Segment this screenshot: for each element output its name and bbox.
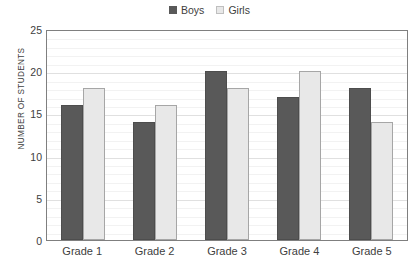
x-axis-tick-2: Grade 2: [118, 246, 190, 257]
bars-layer: [47, 31, 407, 240]
legend-label-boys: Boys: [181, 5, 204, 16]
bar-group-5: [335, 31, 407, 240]
bar-group-4: [263, 31, 335, 240]
legend-label-girls: Girls: [228, 5, 250, 16]
bar-boys-grade-3[interactable]: [205, 71, 227, 240]
legend-entry-girls[interactable]: Girls: [216, 5, 250, 16]
bar-group-3: [191, 31, 263, 240]
legend-swatch-icon-boys: [169, 6, 177, 14]
x-axis-tick-3: Grade 3: [191, 246, 263, 257]
x-axis-tick-4: Grade 4: [263, 246, 335, 257]
bar-group-2: [119, 31, 191, 240]
plot-area: [46, 30, 408, 241]
y-axis-tick-20: 20: [30, 67, 42, 78]
y-axis-tick-0: 0: [36, 236, 42, 247]
bar-boys-grade-2[interactable]: [133, 122, 155, 240]
bar-boys-grade-1[interactable]: [61, 105, 83, 240]
bar-group-1: [47, 31, 119, 240]
bar-girls-grade-5[interactable]: [371, 122, 393, 240]
x-axis-tick-labels: Grade 1Grade 2Grade 3Grade 4Grade 5: [46, 246, 408, 257]
x-axis-tick-5: Grade 5: [336, 246, 408, 257]
bar-boys-grade-4[interactable]: [277, 97, 299, 240]
chart-legend: Boys Girls: [0, 1, 419, 19]
y-axis-tick-15: 15: [30, 109, 42, 120]
y-axis-tick-25: 25: [30, 25, 42, 36]
bar-girls-grade-1[interactable]: [83, 88, 105, 240]
bar-girls-grade-2[interactable]: [155, 105, 177, 240]
x-axis-tick-1: Grade 1: [46, 246, 118, 257]
bar-boys-grade-5[interactable]: [349, 88, 371, 240]
legend-swatch-icon-girls: [216, 6, 224, 14]
bar-girls-grade-3[interactable]: [227, 88, 249, 240]
y-axis-tick-5: 5: [36, 194, 42, 205]
legend-entry-boys[interactable]: Boys: [169, 5, 204, 16]
y-axis-tick-10: 10: [30, 151, 42, 162]
bar-chart: Boys Girls NUMBER OF STUDENTS 0510152025…: [0, 0, 419, 268]
y-axis-tick-labels: 0510152025: [16, 30, 42, 241]
bar-girls-grade-4[interactable]: [299, 71, 321, 240]
